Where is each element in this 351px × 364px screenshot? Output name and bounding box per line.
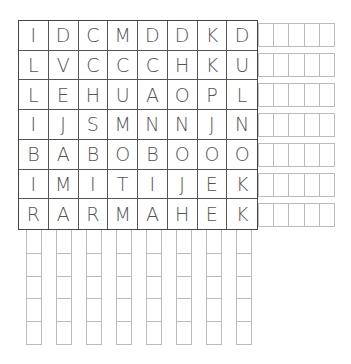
answer-slot[interactable] [147, 321, 161, 344]
grid-cell[interactable]: N [227, 110, 257, 140]
answer-slot[interactable] [288, 204, 303, 226]
grid-cell[interactable]: E [49, 80, 79, 110]
answer-slot[interactable] [237, 321, 251, 344]
answer-slot[interactable] [27, 230, 41, 253]
grid-cell[interactable]: A [49, 199, 79, 229]
answer-slot[interactable] [57, 230, 71, 253]
grid-cell[interactable]: D [49, 21, 79, 51]
grid-cell[interactable]: B [138, 140, 168, 170]
grid-cell[interactable]: I [79, 170, 109, 200]
grid-cell[interactable]: B [79, 140, 109, 170]
answer-slot[interactable] [273, 54, 288, 76]
grid-cell[interactable]: I [138, 170, 168, 200]
answer-slot[interactable] [207, 253, 221, 276]
answer-slot[interactable] [273, 24, 288, 46]
grid-cell[interactable]: A [138, 80, 168, 110]
answer-slot[interactable] [319, 54, 334, 76]
answer-slot[interactable] [87, 253, 101, 276]
answer-slot[interactable] [27, 321, 41, 344]
answer-slot[interactable] [258, 174, 273, 196]
grid-cell[interactable]: D [138, 21, 168, 51]
answer-slot[interactable] [207, 230, 221, 253]
grid-cell[interactable]: S [79, 110, 109, 140]
grid-cell[interactable]: K [198, 51, 228, 81]
answer-slot[interactable] [87, 298, 101, 321]
answer-slot[interactable] [147, 253, 161, 276]
grid-cell[interactable]: E [198, 170, 228, 200]
grid-cell[interactable]: C [138, 51, 168, 81]
answer-slot[interactable] [207, 276, 221, 299]
answer-slot[interactable] [57, 253, 71, 276]
grid-cell[interactable]: H [168, 199, 198, 229]
answer-slot[interactable] [27, 276, 41, 299]
grid-cell[interactable]: N [168, 110, 198, 140]
answer-slot[interactable] [207, 298, 221, 321]
answer-slot[interactable] [177, 230, 191, 253]
grid-cell[interactable]: R [79, 199, 109, 229]
answer-slot[interactable] [288, 174, 303, 196]
answer-slot[interactable] [177, 276, 191, 299]
answer-slot[interactable] [177, 298, 191, 321]
grid-cell[interactable]: K [227, 170, 257, 200]
grid-cell[interactable]: O [168, 140, 198, 170]
answer-slot[interactable] [288, 54, 303, 76]
grid-cell[interactable]: I [19, 170, 49, 200]
answer-slot[interactable] [117, 253, 131, 276]
grid-cell[interactable]: L [19, 51, 49, 81]
answer-slot[interactable] [237, 253, 251, 276]
grid-cell[interactable]: J [198, 110, 228, 140]
grid-cell[interactable]: H [79, 80, 109, 110]
grid-cell[interactable]: B [19, 140, 49, 170]
answer-slot[interactable] [147, 276, 161, 299]
answer-slot[interactable] [273, 174, 288, 196]
grid-cell[interactable]: J [168, 170, 198, 200]
answer-slot[interactable] [304, 84, 319, 106]
grid-cell[interactable]: U [227, 51, 257, 81]
grid-cell[interactable]: L [19, 80, 49, 110]
answer-slot[interactable] [273, 204, 288, 226]
grid-cell[interactable]: O [168, 80, 198, 110]
answer-slot[interactable] [258, 54, 273, 76]
answer-slot[interactable] [117, 321, 131, 344]
grid-cell[interactable]: D [227, 21, 257, 51]
grid-cell[interactable]: A [138, 199, 168, 229]
answer-slot[interactable] [177, 253, 191, 276]
grid-cell[interactable]: R [19, 199, 49, 229]
grid-cell[interactable]: L [227, 80, 257, 110]
answer-slot[interactable] [207, 321, 221, 344]
answer-slot[interactable] [57, 321, 71, 344]
answer-slot[interactable] [319, 114, 334, 136]
answer-slot[interactable] [319, 174, 334, 196]
grid-cell[interactable]: I [19, 110, 49, 140]
answer-slot[interactable] [117, 298, 131, 321]
grid-cell[interactable]: O [108, 140, 138, 170]
answer-slot[interactable] [177, 321, 191, 344]
answer-slot[interactable] [237, 230, 251, 253]
grid-cell[interactable]: O [198, 140, 228, 170]
answer-slot[interactable] [304, 114, 319, 136]
grid-cell[interactable]: I [19, 21, 49, 51]
answer-slot[interactable] [258, 24, 273, 46]
answer-slot[interactable] [237, 298, 251, 321]
answer-slot[interactable] [117, 230, 131, 253]
answer-slot[interactable] [147, 230, 161, 253]
grid-cell[interactable]: O [227, 140, 257, 170]
grid-cell[interactable]: A [49, 140, 79, 170]
answer-slot[interactable] [87, 230, 101, 253]
answer-slot[interactable] [87, 276, 101, 299]
answer-slot[interactable] [57, 298, 71, 321]
answer-slot[interactable] [57, 276, 71, 299]
answer-slot[interactable] [273, 144, 288, 166]
answer-slot[interactable] [288, 114, 303, 136]
grid-cell[interactable]: E [198, 199, 228, 229]
answer-slot[interactable] [319, 24, 334, 46]
grid-cell[interactable]: K [227, 199, 257, 229]
answer-slot[interactable] [147, 298, 161, 321]
answer-slot[interactable] [258, 204, 273, 226]
answer-slot[interactable] [288, 84, 303, 106]
answer-slot[interactable] [304, 174, 319, 196]
answer-slot[interactable] [258, 114, 273, 136]
answer-slot[interactable] [288, 24, 303, 46]
answer-slot[interactable] [117, 276, 131, 299]
answer-slot[interactable] [237, 276, 251, 299]
